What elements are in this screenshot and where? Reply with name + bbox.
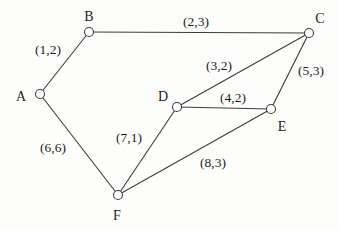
edge-label-E-F: (8,3) [200, 155, 226, 170]
node-label-D: D [158, 89, 168, 104]
graph-canvas: (1,2)(2,3)(3,2)(5,3)(4,2)(6,6)(7,1)(8,3)… [0, 0, 338, 230]
node-E [267, 105, 276, 114]
edge-D-F [118, 107, 177, 195]
node-label-A: A [16, 89, 27, 104]
node-F [114, 191, 123, 200]
graph-diagram: (1,2)(2,3)(3,2)(5,3)(4,2)(6,6)(7,1)(8,3)… [0, 0, 338, 230]
edge-label-C-E: (5,3) [298, 63, 324, 78]
edge-label-D-F: (7,1) [116, 130, 142, 145]
edge-label-C-D: (3,2) [206, 58, 232, 73]
edge-label-D-E: (4,2) [220, 90, 246, 105]
edge-E-F [118, 109, 271, 195]
node-B [85, 28, 94, 37]
edge-B-C [89, 32, 309, 33]
edge-label-B-C: (2,3) [183, 14, 209, 29]
node-label-B: B [84, 9, 93, 24]
node-C [305, 29, 314, 38]
node-label-F: F [113, 208, 121, 223]
node-label-E: E [278, 119, 287, 134]
node-D [173, 103, 182, 112]
edge-label-A-B: (1,2) [35, 42, 61, 57]
node-A [36, 90, 45, 99]
edge-D-E [177, 107, 271, 109]
edge-label-A-F: (6,6) [40, 140, 66, 155]
node-label-C: C [315, 11, 324, 26]
